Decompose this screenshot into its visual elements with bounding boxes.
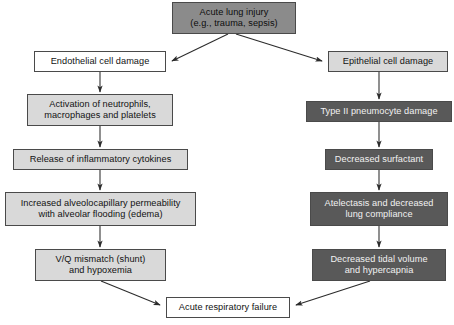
node-label-activation-neutrophils: Activation of neutrophils, macrophages a… [44, 99, 156, 121]
node-label-release-cytokines: Release of inflammatory cytokines [30, 154, 172, 165]
node-acute-respiratory-failure[interactable]: Acute respiratory failure [166, 297, 290, 318]
node-label-increased-permeability: Increased alveolocapillary permeability … [21, 198, 181, 220]
node-increased-permeability[interactable]: Increased alveolocapillary permeability … [5, 192, 196, 226]
node-activation-neutrophils[interactable]: Activation of neutrophils, macrophages a… [27, 94, 173, 126]
node-epithelial-cell-damage[interactable]: Epithelial cell damage [328, 51, 448, 72]
node-release-cytokines[interactable]: Release of inflammatory cytokines [13, 149, 188, 170]
node-vq-mismatch[interactable]: V/Q mismatch (shunt) and hypoxemia [35, 249, 166, 281]
node-type-ii-pneumocyte-damage[interactable]: Type II pneumocyte damage [306, 101, 452, 122]
node-label-endothelial-cell-damage: Endothelial cell damage [51, 56, 150, 67]
node-label-vq-mismatch: V/Q mismatch (shunt) and hypoxemia [56, 254, 146, 276]
node-label-decreased-surfactant: Decreased surfactant [335, 154, 423, 165]
flowchart-canvas: Acute lung injury (e.g., trauma, sepsis)… [0, 0, 454, 325]
edge-ali-to-endothelial [172, 34, 228, 61]
node-label-type-ii-pneumocyte-damage: Type II pneumocyte damage [320, 106, 437, 117]
node-label-epithelial-cell-damage: Epithelial cell damage [343, 56, 433, 67]
edge-vq-to-failure [101, 281, 160, 305]
edge-ali-to-epithelial [236, 34, 322, 61]
node-decreased-surfactant[interactable]: Decreased surfactant [325, 149, 433, 170]
node-endothelial-cell-damage[interactable]: Endothelial cell damage [34, 51, 166, 72]
node-decreased-tidal-volume[interactable]: Decreased tidal volume and hypercapnia [312, 249, 446, 281]
edge-tidal-to-failure [296, 281, 370, 305]
node-label-acute-lung-injury: Acute lung injury (e.g., trauma, sepsis) [190, 7, 277, 29]
node-label-decreased-tidal-volume: Decreased tidal volume and hypercapnia [330, 254, 427, 276]
node-label-acute-respiratory-failure: Acute respiratory failure [179, 302, 277, 313]
node-acute-lung-injury[interactable]: Acute lung injury (e.g., trauma, sepsis) [172, 2, 296, 34]
node-label-atelectasis: Atelectasis and decreased lung complianc… [324, 198, 433, 220]
node-atelectasis[interactable]: Atelectasis and decreased lung complianc… [310, 192, 448, 226]
